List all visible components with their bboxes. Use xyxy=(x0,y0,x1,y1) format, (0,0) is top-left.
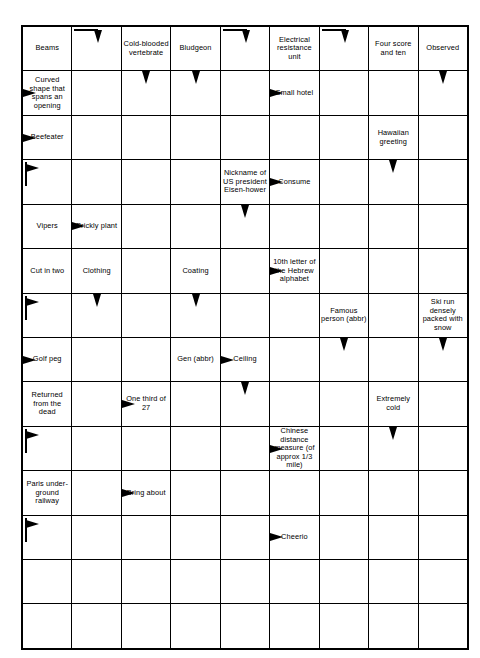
answer-cell[interactable] xyxy=(369,71,418,115)
answer-cell[interactable] xyxy=(72,471,121,515)
answer-cell[interactable] xyxy=(220,249,269,293)
clue-cell[interactable]: Cold-blooded vertebrate xyxy=(121,26,170,71)
answer-cell[interactable] xyxy=(418,382,468,426)
clue-cell[interactable]: Cut in two xyxy=(22,249,72,293)
answer-cell[interactable] xyxy=(369,249,418,293)
clue-cell[interactable]: Vipers xyxy=(22,204,72,248)
answer-cell[interactable] xyxy=(369,337,418,381)
answer-cell[interactable] xyxy=(418,115,468,159)
answer-cell[interactable] xyxy=(319,249,368,293)
answer-cell[interactable] xyxy=(72,515,121,559)
arrow-cell[interactable] xyxy=(369,160,418,204)
answer-cell[interactable] xyxy=(121,249,170,293)
clue-cell[interactable]: Beams xyxy=(22,26,72,71)
clue-cell[interactable]: Ski run densely packed with snow xyxy=(418,293,468,337)
arrow-cell[interactable] xyxy=(22,515,72,559)
answer-cell[interactable] xyxy=(319,515,368,559)
clue-cell[interactable]: Small hotel xyxy=(270,71,319,115)
answer-cell[interactable] xyxy=(121,515,170,559)
answer-cell[interactable] xyxy=(72,71,121,115)
answer-cell[interactable] xyxy=(369,471,418,515)
answer-cell[interactable] xyxy=(270,382,319,426)
clue-cell[interactable]: Gen (abbr) xyxy=(171,337,220,381)
arrow-cell[interactable] xyxy=(319,337,368,381)
arrow-cell[interactable] xyxy=(369,426,418,470)
answer-cell[interactable] xyxy=(171,515,220,559)
clue-cell[interactable]: Nickname of US president Eisen-hower xyxy=(220,160,269,204)
answer-cell[interactable] xyxy=(369,293,418,337)
answer-cell[interactable] xyxy=(418,515,468,559)
arrow-cell[interactable] xyxy=(121,71,170,115)
answer-cell[interactable] xyxy=(121,426,170,470)
answer-cell[interactable] xyxy=(121,337,170,381)
answer-cell[interactable] xyxy=(369,560,418,604)
answer-cell[interactable] xyxy=(418,249,468,293)
answer-cell[interactable] xyxy=(121,115,170,159)
clue-cell[interactable]: Ceiling xyxy=(220,337,269,381)
clue-cell[interactable]: Prickly plant xyxy=(72,204,121,248)
answer-cell[interactable] xyxy=(22,560,72,604)
clue-cell[interactable]: Famous person (abbr) xyxy=(319,293,368,337)
clue-cell[interactable]: Four score and ten xyxy=(369,26,418,71)
arrow-cell[interactable] xyxy=(72,293,121,337)
clue-cell[interactable]: Hawaiian greeting xyxy=(369,115,418,159)
answer-cell[interactable] xyxy=(319,471,368,515)
answer-cell[interactable] xyxy=(220,604,269,649)
answer-cell[interactable] xyxy=(72,382,121,426)
answer-cell[interactable] xyxy=(121,293,170,337)
arrow-cell[interactable] xyxy=(171,71,220,115)
clue-cell[interactable]: Bring about xyxy=(121,471,170,515)
arrow-cell[interactable] xyxy=(22,293,72,337)
clue-cell[interactable]: Clothing xyxy=(72,249,121,293)
answer-cell[interactable] xyxy=(319,382,368,426)
answer-cell[interactable] xyxy=(220,293,269,337)
answer-cell[interactable] xyxy=(171,604,220,649)
answer-cell[interactable] xyxy=(270,204,319,248)
answer-cell[interactable] xyxy=(369,604,418,649)
answer-cell[interactable] xyxy=(171,471,220,515)
answer-cell[interactable] xyxy=(270,337,319,381)
answer-cell[interactable] xyxy=(319,426,368,470)
clue-cell[interactable]: Observed xyxy=(418,26,468,71)
answer-cell[interactable] xyxy=(72,426,121,470)
answer-cell[interactable] xyxy=(319,204,368,248)
answer-cell[interactable] xyxy=(369,515,418,559)
answer-cell[interactable] xyxy=(220,426,269,470)
answer-cell[interactable] xyxy=(121,604,170,649)
clue-cell[interactable]: Cheerio xyxy=(270,515,319,559)
clue-cell[interactable]: Consume xyxy=(270,160,319,204)
arrow-cell[interactable] xyxy=(22,160,72,204)
clue-cell[interactable]: Beefeater xyxy=(22,115,72,159)
arrow-cell[interactable] xyxy=(418,71,468,115)
answer-cell[interactable] xyxy=(319,115,368,159)
clue-cell[interactable]: Returned from the dead xyxy=(22,382,72,426)
answer-cell[interactable] xyxy=(220,471,269,515)
answer-cell[interactable] xyxy=(72,560,121,604)
answer-cell[interactable] xyxy=(270,115,319,159)
answer-cell[interactable] xyxy=(319,71,368,115)
answer-cell[interactable] xyxy=(270,604,319,649)
answer-cell[interactable] xyxy=(72,604,121,649)
arrow-cell[interactable] xyxy=(220,204,269,248)
answer-cell[interactable] xyxy=(319,560,368,604)
answer-cell[interactable] xyxy=(171,560,220,604)
answer-cell[interactable] xyxy=(22,604,72,649)
answer-cell[interactable] xyxy=(121,160,170,204)
answer-cell[interactable] xyxy=(418,160,468,204)
answer-cell[interactable] xyxy=(418,204,468,248)
answer-cell[interactable] xyxy=(418,426,468,470)
answer-cell[interactable] xyxy=(270,560,319,604)
answer-cell[interactable] xyxy=(270,471,319,515)
answer-cell[interactable] xyxy=(319,160,368,204)
answer-cell[interactable] xyxy=(220,515,269,559)
clue-cell[interactable]: Coating xyxy=(171,249,220,293)
clue-cell[interactable]: Electrical resistance unit xyxy=(270,26,319,71)
answer-cell[interactable] xyxy=(171,204,220,248)
answer-cell[interactable] xyxy=(121,560,170,604)
arrow-cell[interactable] xyxy=(171,293,220,337)
answer-cell[interactable] xyxy=(369,204,418,248)
answer-cell[interactable] xyxy=(319,604,368,649)
arrow-cell[interactable] xyxy=(22,426,72,470)
answer-cell[interactable] xyxy=(270,293,319,337)
answer-cell[interactable] xyxy=(72,160,121,204)
